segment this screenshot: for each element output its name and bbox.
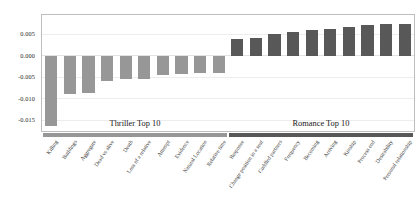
bar: [361, 25, 373, 56]
x-axis-tick-label: Response: [228, 139, 245, 160]
x-axis-tick-label: Aggregate: [78, 139, 96, 162]
x-axis-tick-label: Relative time: [205, 139, 227, 167]
x-axis-tick-label: Kinship: [342, 139, 357, 157]
bar: [138, 56, 150, 79]
bar: [213, 56, 225, 73]
y-axis-tick-label: -0.015: [18, 116, 35, 123]
bar: [343, 27, 355, 56]
bar: [120, 56, 132, 80]
bar: [194, 56, 206, 74]
x-axis-tick-label: Frequency: [283, 139, 301, 162]
bar: [64, 56, 76, 94]
group-band: [229, 133, 413, 137]
x-axis-category-labels: KillingBuildingsAggregateDead vs aliveDe…: [42, 139, 414, 207]
group-label: Romance Top 10: [293, 119, 350, 128]
group-band: [43, 133, 227, 137]
x-axis-tick-label: Desirability: [374, 139, 394, 164]
chart-root: 0.0050.000-0.005-0.010-0.015 KillingBuil…: [0, 0, 420, 207]
x-axis-tick-label: Attempt: [156, 139, 171, 158]
y-axis-tick-label: -0.010: [18, 94, 35, 101]
x-axis-tick-label: Death: [121, 139, 133, 153]
y-axis-tick-label: -0.005: [18, 73, 35, 80]
bar: [45, 56, 57, 126]
bar: [175, 56, 187, 74]
bar: [306, 30, 318, 55]
bar: [250, 38, 262, 56]
bar: [101, 56, 113, 81]
x-axis-tick-label: Killing: [45, 139, 59, 156]
y-axis-tick-label: 0.000: [20, 51, 35, 58]
bar: [82, 56, 94, 93]
y-axis: 0.0050.000-0.005-0.010-0.015: [0, 14, 39, 132]
bar-series: [42, 15, 414, 131]
x-axis-tick-label: Arriving: [323, 139, 339, 158]
x-axis-tick-label: Dead vs alive: [93, 139, 115, 168]
bar: [287, 32, 299, 56]
bar: [380, 24, 392, 55]
x-axis-tick-label: Becoming: [302, 139, 320, 161]
bar: [231, 39, 243, 55]
group-label: Thriller Top 10: [110, 119, 161, 128]
x-axis-tick-label: Evidence: [173, 139, 190, 160]
bar: [268, 34, 280, 55]
y-axis-tick-label: 0.005: [20, 30, 35, 37]
bar: [399, 24, 411, 56]
bar: [157, 56, 169, 75]
x-axis-tick-label: Buildings: [61, 139, 78, 160]
bar: [324, 29, 336, 56]
x-axis-tick-label: Change position in a seat: [227, 139, 263, 189]
x-axis-tick-label: Process end: [356, 139, 376, 164]
